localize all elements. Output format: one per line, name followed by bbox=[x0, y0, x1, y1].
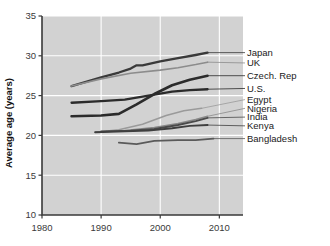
y-tick-label: 35 bbox=[25, 10, 36, 21]
y-axis-title: Average age (years) bbox=[3, 78, 14, 168]
series-label-czech-rep: Czech. Rep bbox=[247, 70, 297, 81]
y-tick-label: 15 bbox=[25, 170, 36, 181]
y-tick-label: 20 bbox=[25, 130, 36, 141]
chart-canvas: 101520253035 1980199020002010 JapanUKCze… bbox=[0, 0, 330, 246]
average-age-line-chart: 101520253035 1980199020002010 JapanUKCze… bbox=[0, 0, 330, 246]
y-tick-label: 10 bbox=[25, 209, 36, 220]
series-label-bangladesh: Bangladesh bbox=[247, 133, 297, 144]
series-label-japan: Japan bbox=[247, 47, 273, 58]
x-tick-label: 1980 bbox=[31, 222, 52, 233]
y-tick-label: 25 bbox=[25, 90, 36, 101]
x-tick-label: 2000 bbox=[150, 222, 171, 233]
series-label-uk: UK bbox=[247, 57, 261, 68]
series-label-kenya: Kenya bbox=[247, 120, 275, 131]
series-label-u-s: U.S. bbox=[247, 83, 265, 94]
x-tick-label: 1990 bbox=[91, 222, 112, 233]
x-tick-label: 2010 bbox=[209, 222, 230, 233]
y-axis-title-text: Average age (years) bbox=[3, 78, 14, 168]
y-tick-label: 30 bbox=[25, 50, 36, 61]
